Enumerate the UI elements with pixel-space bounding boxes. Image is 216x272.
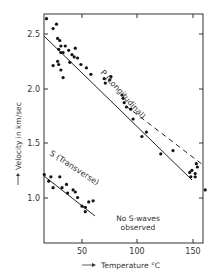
data-point <box>76 56 79 59</box>
data-point <box>62 51 65 54</box>
y-axis-label: Velocity in km/sec <box>14 102 23 170</box>
data-point <box>68 61 71 64</box>
data-point <box>196 165 199 168</box>
data-point <box>60 186 63 189</box>
data-point <box>47 180 50 183</box>
x-axis-label-group: Temperature °C <box>82 261 160 270</box>
data-point <box>59 44 62 47</box>
data-point <box>80 205 83 208</box>
data-point <box>62 76 65 79</box>
data-point <box>55 23 58 26</box>
velocity-temperature-chart: 2.5 2.0 1.5 1.0 50 100 150 Velocity in k… <box>0 0 216 272</box>
data-point <box>59 68 62 71</box>
data-point <box>204 188 207 191</box>
data-point <box>67 49 70 52</box>
x-tick-50: 50 <box>77 247 87 256</box>
data-point <box>145 131 148 134</box>
data-point <box>84 206 87 209</box>
data-point <box>87 200 90 203</box>
data-point <box>58 39 61 42</box>
data-point <box>64 44 67 47</box>
data-point <box>194 172 197 175</box>
note-line-2: observed <box>121 223 156 232</box>
x-axis-ticks <box>82 14 193 243</box>
data-point <box>140 135 143 138</box>
data-point <box>52 186 55 189</box>
data-point <box>45 17 48 20</box>
data-point <box>159 152 162 155</box>
plot-frame <box>44 14 203 243</box>
data-point <box>52 27 55 30</box>
data-point <box>66 192 69 195</box>
data-point <box>56 60 59 63</box>
y-tick-1-5: 1.5 <box>27 139 40 148</box>
data-point <box>58 175 61 178</box>
data-point <box>57 48 60 51</box>
data-point <box>92 199 95 202</box>
data-point <box>74 190 77 193</box>
x-tick-150: 150 <box>185 247 200 256</box>
y-tick-2-5: 2.5 <box>27 30 40 39</box>
data-point <box>74 47 77 50</box>
data-point <box>85 66 88 69</box>
data-point <box>84 210 87 213</box>
data-point <box>195 162 198 165</box>
data-point <box>79 63 82 66</box>
data-point <box>49 175 52 178</box>
data-point <box>52 64 55 67</box>
data-point <box>57 63 60 66</box>
s-fit-line <box>44 176 95 216</box>
data-point <box>65 183 68 186</box>
s-series-label: S (Transverse) <box>48 149 101 188</box>
y-axis-label-group: Velocity in km/sec <box>14 102 23 185</box>
note-line-1: No S-waves <box>116 214 160 223</box>
data-point <box>89 73 92 76</box>
y-tick-2-0: 2.0 <box>27 85 40 94</box>
y-tick-1-0: 1.0 <box>27 194 40 203</box>
data-point <box>132 117 135 120</box>
data-point <box>189 175 192 178</box>
x-tick-100: 100 <box>129 247 144 256</box>
data-point <box>190 169 193 172</box>
data-point <box>194 175 197 178</box>
data-point <box>76 196 79 199</box>
data-point <box>171 149 174 152</box>
x-axis-label: Temperature °C <box>100 261 160 270</box>
data-point <box>43 173 46 176</box>
data-point <box>73 55 76 58</box>
